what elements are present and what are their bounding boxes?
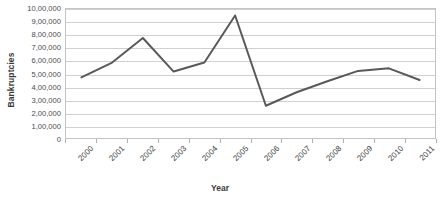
x-axis-tick bbox=[220, 139, 221, 143]
x-axis-title: Year bbox=[0, 183, 440, 193]
y-axis-tick-label: 9,00,000 bbox=[31, 17, 61, 26]
x-axis-tick-label: 2001 bbox=[108, 144, 127, 163]
y-axis-tick-label: 0 bbox=[57, 135, 61, 144]
x-axis-tick-label: 2003 bbox=[170, 144, 189, 163]
y-axis-tick-label: 5,00,000 bbox=[31, 69, 61, 78]
y-axis-tick-label: 6,00,000 bbox=[31, 56, 61, 65]
x-axis-tick bbox=[127, 139, 128, 143]
x-axis-tick-label: 2000 bbox=[77, 144, 96, 163]
x-axis-tick bbox=[312, 139, 313, 143]
x-axis-tick bbox=[251, 139, 252, 143]
x-axis-tick bbox=[374, 139, 375, 143]
y-axis-tick-label: 10,00,000 bbox=[27, 4, 61, 13]
bankruptcies-line-chart: Bankruptcies 01,00,0002,00,0003,00,0004,… bbox=[0, 0, 440, 206]
y-axis-tick-label: 2,00,000 bbox=[31, 108, 61, 117]
y-axis-tick-label: 3,00,000 bbox=[31, 95, 61, 104]
y-axis-tick-label: 4,00,000 bbox=[31, 82, 61, 91]
y-axis-title-label: Bankruptcies bbox=[6, 52, 16, 107]
y-axis-tick-label: 8,00,000 bbox=[31, 30, 61, 39]
x-axis-tick bbox=[65, 139, 66, 143]
x-axis-tick bbox=[436, 139, 437, 143]
y-axis-tick-label: 7,00,000 bbox=[31, 43, 61, 52]
x-axis-title-label: Year bbox=[211, 183, 229, 193]
y-axis-tick-label: 1,00,000 bbox=[31, 121, 61, 130]
x-axis-tick bbox=[158, 139, 159, 143]
x-axis-tick bbox=[96, 139, 97, 143]
x-axis-tick-label: 2007 bbox=[293, 144, 312, 163]
x-axis-tick-label: 2010 bbox=[386, 144, 405, 163]
x-axis-tick bbox=[343, 139, 344, 143]
x-axis-tick-label: 2005 bbox=[231, 144, 250, 163]
x-axis-tick-label: 2008 bbox=[324, 144, 343, 163]
x-axis-tick bbox=[281, 139, 282, 143]
y-axis-tick-labels: 01,00,0002,00,0003,00,0004,00,0005,00,00… bbox=[20, 8, 64, 139]
x-axis-tick-label: 2002 bbox=[139, 144, 158, 163]
x-axis-tick bbox=[405, 139, 406, 143]
data-series-line bbox=[66, 9, 435, 138]
x-axis-tick-label: 2011 bbox=[417, 144, 436, 163]
x-axis-tick-label: 2004 bbox=[201, 144, 220, 163]
x-axis-tick bbox=[189, 139, 190, 143]
x-axis-tick-label: 2009 bbox=[355, 144, 374, 163]
x-axis-tick-labels: 2000200120022003200420052006200720082009… bbox=[65, 144, 436, 178]
plot-area bbox=[65, 8, 436, 139]
y-axis-title: Bankruptcies bbox=[0, 0, 22, 160]
x-axis-tick-label: 2006 bbox=[262, 144, 281, 163]
